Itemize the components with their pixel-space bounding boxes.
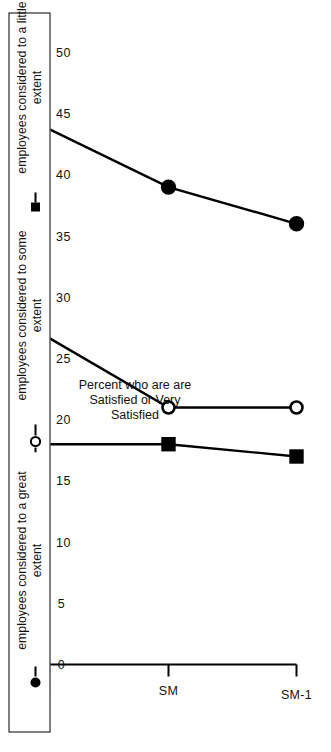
- ytick-label-25: 25: [56, 351, 71, 365]
- ytick-label-40: 40: [56, 167, 71, 181]
- ytick-label-50: 50: [56, 45, 71, 59]
- marker-great-extent-sm: [162, 180, 175, 193]
- ytick-label-0: 0: [57, 657, 64, 671]
- ytick-label-15: 15: [56, 473, 71, 487]
- ytick-label-35: 35: [56, 229, 71, 243]
- series-little-extent: [36, 438, 302, 462]
- rotated-figure-container: 50 45 40 35 30 25 20 15 10 5 0 Percent w…: [0, 0, 331, 752]
- value-axis-title: Percent who are are Satisfied or Very Sa…: [55, 378, 215, 423]
- ytick-label-30: 30: [56, 290, 71, 304]
- ytick-label-5: 5: [57, 596, 64, 610]
- series-great-extent: [36, 119, 303, 230]
- ytick-label-10: 10: [56, 535, 71, 549]
- marker-some-extent-sm1: [290, 401, 302, 413]
- marker-little-extent-sm: [162, 438, 174, 450]
- category-label-sm1: SM-1: [280, 687, 311, 701]
- legend-label-some-extent: employees considered to some extent: [14, 203, 44, 428]
- legend-label-little-extent: employees considered to a little extent: [14, 0, 44, 200]
- chart-figure: 50 45 40 35 30 25 20 15 10 5 0 Percent w…: [0, 0, 331, 752]
- series-great-extent-line: [42, 125, 296, 223]
- marker-little-extent-sm1: [290, 450, 302, 462]
- legend-label-great-extent: employees considered to a great extent: [14, 445, 44, 675]
- marker-great-extent-sm1: [290, 217, 303, 230]
- category-axis: [42, 664, 296, 676]
- plot-area: 50 45 40 35 30 25 20 15 10 5 0 Percent w…: [0, 0, 331, 752]
- category-label-sm: SM: [158, 683, 177, 697]
- ytick-label-45: 45: [56, 106, 71, 120]
